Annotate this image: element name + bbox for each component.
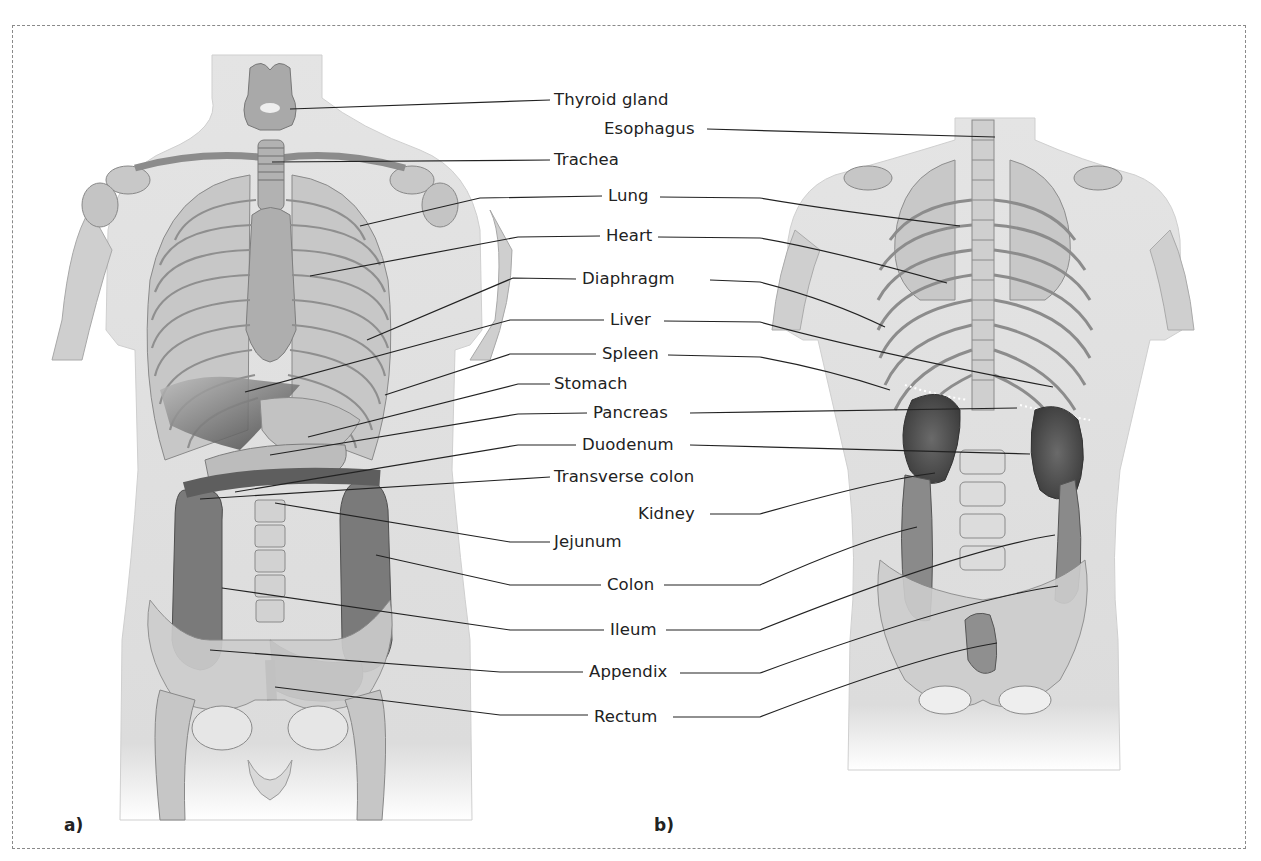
panel-label-a: a): [64, 815, 83, 835]
label-liver: Liver: [608, 310, 653, 330]
label-stomach: Stomach: [552, 374, 629, 394]
label-colon: Colon: [605, 575, 656, 595]
panel-label-b: b): [654, 815, 674, 835]
label-transverse-colon: Transverse colon: [552, 467, 696, 487]
label-spleen: Spleen: [600, 344, 661, 364]
label-trachea: Trachea: [552, 150, 621, 170]
label-esophagus: Esophagus: [602, 119, 697, 139]
label-jejunum: Jejunum: [552, 532, 624, 552]
label-heart: Heart: [604, 226, 654, 246]
label-appendix: Appendix: [587, 662, 669, 682]
label-pancreas: Pancreas: [591, 403, 670, 423]
label-lung: Lung: [606, 186, 651, 206]
label-duodenum: Duodenum: [580, 435, 676, 455]
label-diaphragm: Diaphragm: [580, 269, 677, 289]
label-thyroid-gland: Thyroid gland: [552, 90, 671, 110]
label-kidney: Kidney: [636, 504, 697, 524]
anterior-figure: [52, 55, 512, 820]
posterior-figure: [772, 118, 1194, 770]
label-rectum: Rectum: [592, 707, 660, 727]
label-ileum: Ileum: [608, 620, 659, 640]
